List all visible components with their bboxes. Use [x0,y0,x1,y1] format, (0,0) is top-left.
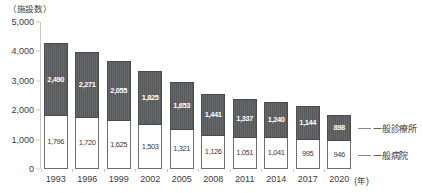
bar-value-label: 1,441 [205,111,222,119]
bar-value-label: 1,144 [299,119,316,127]
bar-value-label: 1,720 [79,139,96,147]
x-axis-tick-label: 1999 [102,174,136,184]
bar-value-label: 1,825 [142,94,159,102]
bar-value-label: 1,796 [47,138,64,146]
bar-value-label: 1,337 [236,115,253,123]
x-axis-tick-label: 2011 [228,174,262,184]
plot-area: 01,0002,0003,0004,0005,0002,4901,7961993… [40,22,355,169]
bar-segment-clinics[interactable]: 1,653 [170,82,194,131]
bar-value-label: 1,321 [173,145,190,153]
bar-value-label: 1,653 [173,102,190,110]
bar-segment-clinics[interactable]: 1,240 [264,102,288,138]
bar-value-label: 898 [334,124,345,132]
bar-group[interactable]: 1,2401,0412014 [264,102,288,169]
y-axis-tick-mark [36,139,40,140]
y-axis-tick-mark [36,110,40,111]
bar-segment-clinics[interactable]: 2,271 [75,52,99,119]
bar-segment-hospitals[interactable]: 1,720 [75,118,99,169]
bar-segment-clinics[interactable]: 1,337 [233,99,257,138]
x-axis-tick-label: 2017 [291,174,325,184]
x-axis-unit-label: (年) [354,174,369,186]
bar-segment-clinics[interactable]: 1,144 [296,106,320,140]
bar-segment-hospitals[interactable]: 1,126 [201,136,225,169]
x-axis-tick-mark [41,169,42,172]
bar-segment-clinics[interactable]: 898 [327,115,351,141]
bar-segment-hospitals[interactable]: 1,796 [44,116,68,169]
x-axis-tick-mark [198,169,199,172]
legend-connector-line [358,155,371,156]
bar-group[interactable]: 1,1449952017 [296,106,320,169]
bar-segment-hospitals[interactable]: 1,503 [138,125,162,169]
bar-segment-hospitals[interactable]: 995 [296,140,320,169]
bar-value-label: 2,055 [110,87,127,95]
bar-value-label: 1,041 [268,149,285,157]
bar-value-label: 2,271 [79,81,96,89]
legend-label: 一般病院 [373,149,408,162]
bar-segment-clinics[interactable]: 1,825 [138,71,162,125]
x-axis-tick-mark [72,169,73,172]
bar-segment-hospitals[interactable]: 946 [327,141,351,169]
legend-label: 一般診療所 [373,122,417,135]
bar-group[interactable]: 1,3371,0512011 [233,99,257,169]
x-axis-tick-mark [135,169,136,172]
x-axis-tick-label: 2005 [165,174,199,184]
bar-value-label: 946 [334,151,345,159]
x-axis-tick-mark [230,169,231,172]
bar-group[interactable]: 1,4411,1262008 [201,94,225,169]
x-axis-tick-mark [261,169,262,172]
legend-item-clinics: 一般診療所 [358,122,417,135]
chart-container: （施設数） 01,0002,0003,0004,0005,0002,4901,7… [0,0,422,193]
bar-value-label: 1,051 [236,149,253,157]
y-axis-tick-mark [36,80,40,81]
bar-value-label: 1,503 [142,143,159,151]
bar-value-label: 1,126 [205,148,222,156]
legend-connector-line [358,128,371,129]
bar-group[interactable]: 2,2711,7201996 [75,52,99,169]
bar-segment-hospitals[interactable]: 1,321 [170,130,194,169]
y-axis-tick-mark [36,169,40,170]
bar-group[interactable]: 2,0551,6251999 [107,61,131,169]
x-axis-tick-mark [293,169,294,172]
bar-group[interactable]: 1,8251,5032002 [138,71,162,169]
x-axis-tick-label: 2008 [196,174,230,184]
x-axis-tick-mark [167,169,168,172]
bar-segment-clinics[interactable]: 2,490 [44,43,68,116]
bar-group[interactable]: 1,6531,3212005 [170,82,194,169]
y-axis-tick-mark [36,22,40,23]
bar-group[interactable]: 8989462020 [327,115,351,169]
bar-segment-hospitals[interactable]: 1,625 [107,121,131,169]
x-axis-tick-label: 2002 [133,174,167,184]
x-axis-tick-mark [324,169,325,172]
bar-segment-hospitals[interactable]: 1,041 [264,138,288,169]
bar-value-label: 1,240 [268,116,285,124]
bar-segment-clinics[interactable]: 2,055 [107,61,131,121]
y-axis-title: （施設数） [8,2,52,14]
x-axis-tick-label: 2014 [259,174,293,184]
x-axis-tick-mark [104,169,105,172]
bar-value-label: 2,490 [47,76,64,84]
y-axis-tick-mark [36,51,40,52]
bar-group[interactable]: 2,4901,7961993 [44,43,68,169]
x-axis-tick-label: 1993 [39,174,73,184]
legend-item-hospitals: 一般病院 [358,149,408,162]
bar-segment-clinics[interactable]: 1,441 [201,94,225,136]
x-axis-tick-label: 1996 [70,174,104,184]
bar-value-label: 1,625 [110,141,127,149]
bar-segment-hospitals[interactable]: 1,051 [233,138,257,169]
bar-value-label: 995 [302,150,313,158]
x-axis-tick-label: 2020 [322,174,356,184]
